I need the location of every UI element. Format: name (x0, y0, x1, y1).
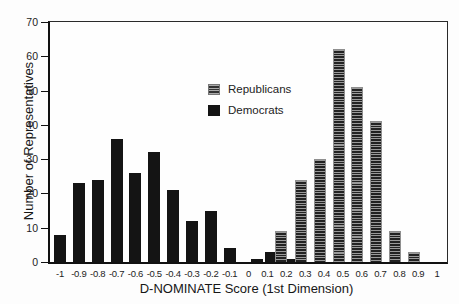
y-tick-label: 40 (8, 119, 38, 131)
democrats-bar (54, 235, 66, 262)
republicans-bar (333, 49, 345, 262)
legend-label-democrats: Democrats (228, 104, 284, 116)
y-tick-label: 30 (8, 153, 38, 165)
democrats-bar (251, 259, 263, 262)
y-tick-mark (41, 159, 48, 160)
republicans-swatch-icon (208, 84, 220, 95)
y-tick-label: 50 (8, 85, 38, 97)
democrats-bar (73, 183, 85, 262)
republicans-bar (408, 252, 420, 262)
y-tick-mark (41, 193, 48, 194)
democrats-bar (129, 173, 141, 262)
democrats-bar (148, 152, 160, 262)
republicans-bar (314, 159, 326, 262)
y-axis-title: Number of Representatives (21, 56, 36, 226)
democrats-bar (224, 248, 236, 262)
y-tick-label: 0 (8, 256, 38, 268)
democrats-bar (167, 190, 179, 262)
republicans-bar (295, 180, 307, 262)
legend: Republicans Democrats (208, 83, 291, 125)
y-tick-mark (41, 22, 48, 23)
y-tick-mark (41, 228, 48, 229)
y-tick-mark (41, 56, 48, 57)
democrats-bar (186, 221, 198, 262)
democrats-bar (205, 211, 217, 262)
y-tick-label: 60 (8, 50, 38, 62)
chart-figure: Number of Representatives Republicans De… (0, 0, 459, 304)
republicans-bar (275, 231, 287, 262)
republicans-bar (370, 121, 382, 262)
plot-area: Republicans Democrats 010203040506070-1-… (48, 21, 448, 264)
y-tick-label: 10 (8, 222, 38, 234)
democrats-bar (111, 139, 123, 262)
y-tick-mark (41, 262, 48, 263)
y-tick-mark (41, 91, 48, 92)
x-tick-label: 1 (422, 268, 452, 279)
y-tick-label: 20 (8, 187, 38, 199)
republicans-bar (351, 87, 363, 262)
democrats-swatch-icon (208, 105, 220, 116)
y-tick-mark (41, 125, 48, 126)
legend-item-democrats: Democrats (208, 104, 291, 116)
legend-label-republicans: Republicans (228, 83, 291, 95)
legend-item-republicans: Republicans (208, 83, 291, 95)
x-axis-title: D-NOMINATE Score (1st Dimension) (48, 281, 445, 296)
republicans-bar (389, 231, 401, 262)
democrats-bar (92, 180, 104, 262)
y-tick-label: 70 (8, 16, 38, 28)
